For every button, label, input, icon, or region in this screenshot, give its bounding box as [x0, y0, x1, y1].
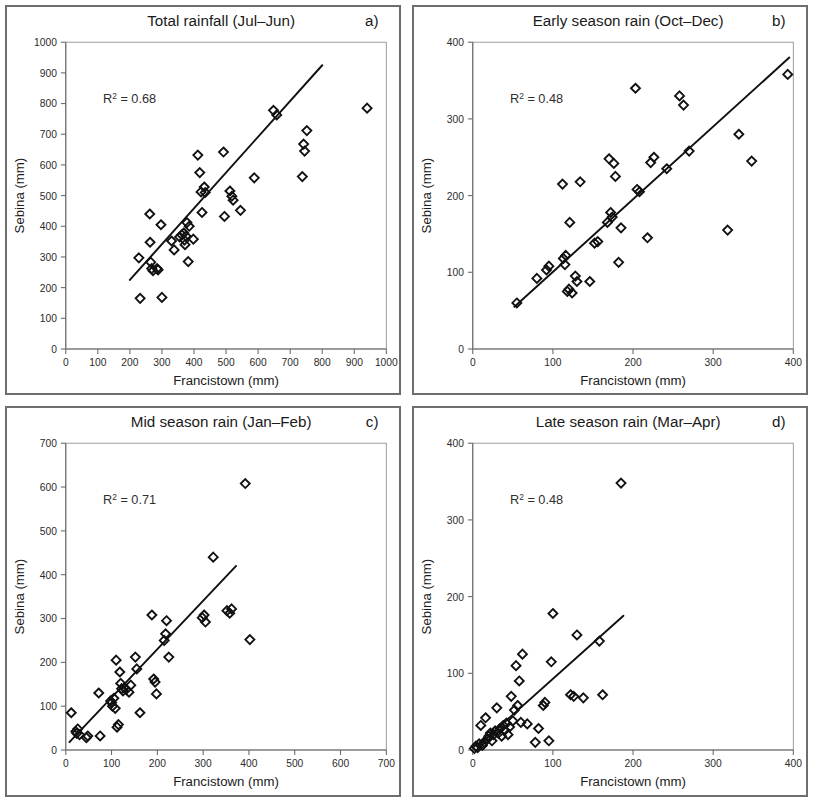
data-point-marker	[579, 693, 588, 702]
y-tick-label: 1000	[34, 37, 57, 48]
x-tick-label: 300	[705, 758, 722, 769]
y-tick-label: 100	[447, 668, 464, 679]
data-point-marker	[783, 70, 792, 79]
data-point-marker	[115, 667, 124, 676]
data-point-marker	[241, 479, 250, 488]
y-tick-label: 300	[40, 252, 57, 263]
data-point-marker	[614, 258, 623, 267]
data-point-marker	[548, 609, 557, 618]
data-point-marker	[145, 209, 154, 218]
y-axis-label: Sebina (mm)	[419, 559, 434, 635]
x-tick-label: 400	[785, 357, 802, 368]
x-tick-label: 700	[282, 357, 299, 368]
x-tick-label: 100	[89, 357, 106, 368]
data-points	[67, 479, 255, 742]
data-point-marker	[209, 553, 218, 562]
panel-title: Late season rain (Mar–Apr)	[536, 413, 721, 430]
x-tick-label: 200	[624, 357, 641, 368]
x-tick-label: 800	[314, 357, 331, 368]
data-point-marker	[585, 277, 594, 286]
data-point-marker	[250, 173, 259, 182]
y-tick-label: 800	[40, 98, 57, 109]
data-point-marker	[219, 148, 228, 157]
r-squared-text: R2 = 0.48	[510, 91, 563, 106]
data-point-marker	[604, 154, 613, 163]
data-point-marker	[723, 226, 732, 235]
x-tick-label: 400	[240, 758, 257, 769]
panel-c: Mid season rain (Jan–Feb)c)0100200300400…	[0, 401, 407, 803]
x-tick-label: 400	[785, 758, 802, 769]
x-tick-label: 0	[470, 758, 476, 769]
data-point-marker	[532, 274, 541, 283]
y-tick-label: 900	[40, 68, 57, 79]
data-point-marker	[67, 708, 76, 717]
x-tick-label: 100	[103, 758, 120, 769]
data-point-marker	[152, 689, 161, 698]
y-tick-label: 200	[40, 283, 57, 294]
panel-letter: b)	[772, 12, 786, 29]
x-tick-label: 300	[705, 357, 722, 368]
x-tick-label: 500	[217, 357, 234, 368]
trend-line	[69, 566, 236, 742]
x-tick-label: 300	[153, 357, 170, 368]
y-axis-label: Sebina (mm)	[419, 158, 434, 234]
data-point-marker	[157, 293, 166, 302]
data-point-marker	[96, 731, 105, 740]
data-point-marker	[631, 84, 640, 93]
data-point-marker	[576, 177, 585, 186]
panel-b: Early season rain (Oct–Dec)b)01002003004…	[407, 0, 814, 401]
data-point-marker	[572, 630, 581, 639]
y-tick-label: 200	[40, 657, 57, 668]
data-point-marker	[94, 689, 103, 698]
y-tick-label: 100	[40, 313, 57, 324]
y-tick-label: 0	[458, 344, 464, 355]
y-tick-label: 0	[51, 745, 57, 756]
r-squared-annotation: R2 = 0.48	[510, 492, 563, 507]
x-axis-label: Francistown (mm)	[580, 373, 686, 388]
x-tick-label: 400	[185, 357, 202, 368]
y-tick-label: 400	[447, 37, 464, 48]
data-point-marker	[747, 157, 756, 166]
y-tick-label: 100	[447, 267, 464, 278]
y-tick-label: 300	[447, 515, 464, 526]
data-point-marker	[515, 676, 524, 685]
data-point-marker	[481, 713, 490, 722]
y-tick-label: 400	[447, 438, 464, 449]
data-point-marker	[507, 692, 516, 701]
data-point-marker	[156, 220, 165, 229]
y-tick-label: 200	[447, 592, 464, 603]
data-point-marker	[134, 253, 143, 262]
data-point-marker	[136, 294, 145, 303]
panel-c-chart: Mid season rain (Jan–Feb)c)0100200300400…	[4, 405, 403, 799]
data-point-marker	[558, 180, 567, 189]
x-tick-label: 200	[149, 758, 166, 769]
data-point-marker	[146, 238, 155, 247]
data-point-marker	[518, 650, 527, 659]
data-point-marker	[298, 172, 307, 181]
y-tick-label: 700	[40, 129, 57, 140]
data-point-marker	[164, 653, 173, 662]
x-axis-label: Francistown (mm)	[173, 373, 279, 388]
panel-title: Early season rain (Oct–Dec)	[533, 12, 724, 29]
r-squared-text: R2 = 0.68	[103, 91, 156, 106]
data-point-marker	[617, 223, 626, 232]
data-point-marker	[476, 721, 485, 730]
x-tick-label: 0	[63, 357, 69, 368]
x-axis-label: Francistown (mm)	[173, 774, 279, 789]
data-point-marker	[363, 104, 372, 113]
x-tick-label: 600	[332, 758, 349, 769]
y-axis-label: Sebina (mm)	[12, 559, 27, 635]
data-point-marker	[220, 212, 229, 221]
r-squared-text: R2 = 0.48	[510, 492, 563, 507]
data-point-marker	[617, 479, 626, 488]
r-squared-annotation: R2 = 0.71	[103, 492, 156, 507]
y-tick-label: 300	[40, 613, 57, 624]
data-point-marker	[675, 91, 684, 100]
panel-letter: d)	[772, 413, 786, 430]
y-tick-label: 700	[40, 438, 57, 449]
panel-a: Total rainfall (Jul–Jun)a)01002003004005…	[0, 0, 407, 401]
data-point-marker	[609, 159, 618, 168]
data-point-marker	[598, 690, 607, 699]
r-squared-text: R2 = 0.71	[103, 492, 156, 507]
r-squared-annotation: R2 = 0.68	[103, 91, 156, 106]
